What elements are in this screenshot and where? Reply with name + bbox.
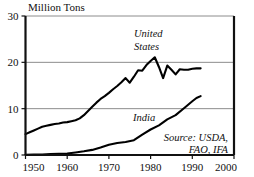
ytick-label-10: 10 — [8, 103, 20, 115]
chart-container: 195019601970198019902000 0102030 Million… — [0, 0, 254, 177]
chart-title: Million Tons — [28, 1, 85, 13]
ytick-label-30: 30 — [8, 10, 20, 22]
source-note-line1: Source: USDA, — [164, 132, 228, 143]
xtick-label-2000: 2000 — [215, 161, 238, 173]
series-label-india: India — [132, 112, 155, 123]
xtick-label-1960: 1960 — [56, 161, 79, 173]
line-chart: 195019601970198019902000 0102030 Million… — [0, 0, 254, 177]
xtick-label-1980: 1980 — [140, 161, 163, 173]
ytick-label-20: 20 — [8, 56, 20, 68]
xtick-label-1990: 1990 — [181, 161, 204, 173]
series-label-united-states-line1: United — [134, 28, 163, 39]
ytick-label-0: 0 — [13, 149, 19, 161]
series-label-united-states-line2: States — [134, 41, 159, 52]
xtick-label-1970: 1970 — [98, 161, 121, 173]
xtick-label-1950: 1950 — [23, 161, 46, 173]
source-note-line2: FAO, IFA — [188, 144, 229, 155]
